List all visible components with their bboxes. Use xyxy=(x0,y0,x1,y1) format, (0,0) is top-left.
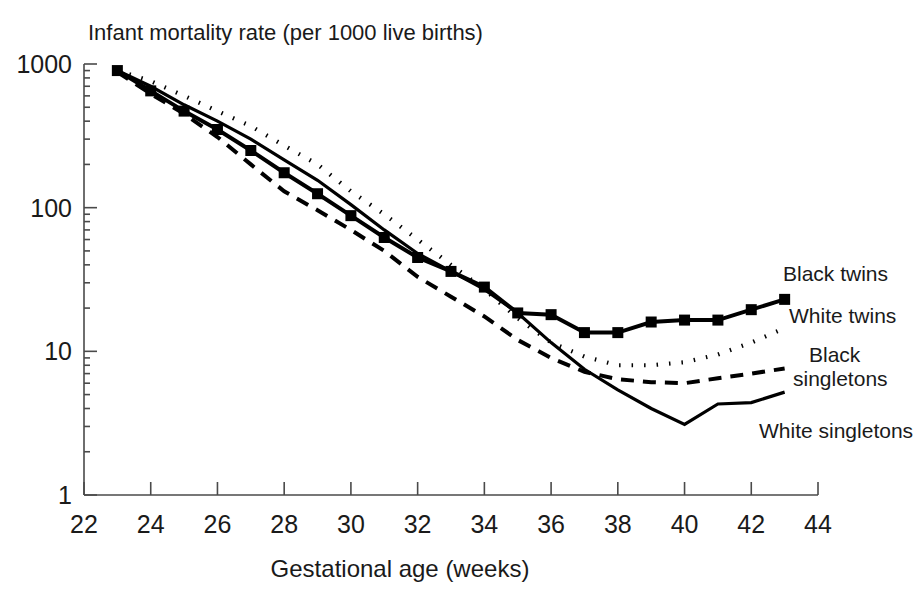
series-marker-black-twins xyxy=(712,315,723,326)
legend-label-singletons: singletons xyxy=(793,367,888,390)
x-axis-tick-label: 24 xyxy=(137,510,165,538)
x-axis-tick-label: 28 xyxy=(270,510,298,538)
legend-label-white-singletons: White singletons xyxy=(759,419,913,442)
infant-mortality-chart: Infant mortality rate (per 1000 live bir… xyxy=(0,0,919,604)
series-marker-black-twins xyxy=(746,304,757,315)
series-marker-black-twins xyxy=(345,210,356,221)
legend-label-black-twins: Black twins xyxy=(783,262,888,285)
x-axis-tick-label: 42 xyxy=(737,510,765,538)
legend-group: Black twinsWhite twinsBlacksingletonsWhi… xyxy=(759,262,913,442)
series-marker-black-twins xyxy=(546,309,557,320)
series-marker-black-twins xyxy=(245,145,256,156)
x-axis-tick-label: 36 xyxy=(537,510,565,538)
y-axis-tick-label: 10 xyxy=(44,337,72,365)
y-axis: 1101001000 xyxy=(16,50,97,509)
x-axis-tick-label: 44 xyxy=(804,510,832,538)
series-marker-black-twins xyxy=(612,327,623,338)
chart-title: Infant mortality rate (per 1000 live bir… xyxy=(88,20,483,45)
series-marker-black-twins xyxy=(312,188,323,199)
x-axis-tick-label: 22 xyxy=(70,510,98,538)
x-axis-tick-label: 32 xyxy=(404,510,432,538)
x-axis-title: Gestational age (weeks) xyxy=(271,555,530,582)
x-axis-title-group: Gestational age (weeks) xyxy=(271,555,530,582)
series-line-black-twins xyxy=(117,71,784,333)
x-axis-tick-label: 30 xyxy=(337,510,365,538)
series-marker-black-twins xyxy=(279,167,290,178)
series-marker-black-twins xyxy=(646,317,657,328)
data-series-group xyxy=(112,65,790,424)
x-axis-tick-label: 26 xyxy=(204,510,232,538)
y-axis-tick-label: 1000 xyxy=(16,50,72,78)
chart-title-group: Infant mortality rate (per 1000 live bir… xyxy=(88,20,483,45)
series-line-white-singletons xyxy=(117,71,784,425)
y-axis-tick-label: 100 xyxy=(30,194,72,222)
x-axis-tick-label: 34 xyxy=(470,510,498,538)
series-marker-black-twins xyxy=(679,315,690,326)
x-axis-tick-label: 40 xyxy=(671,510,699,538)
series-line-black-singletons xyxy=(117,72,784,383)
x-axis-tick-label: 38 xyxy=(604,510,632,538)
chart-figure: Infant mortality rate (per 1000 live bir… xyxy=(0,0,919,604)
legend-label-black: Black xyxy=(809,343,861,366)
y-axis-tick-label: 1 xyxy=(58,481,72,509)
x-axis: 222426283032343638404244 xyxy=(70,482,832,538)
legend-label-white-twins: White twins xyxy=(789,304,896,327)
series-marker-black-twins xyxy=(579,327,590,338)
